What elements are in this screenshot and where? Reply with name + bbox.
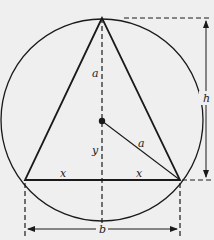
label-h: h [203,92,210,105]
label-b: b [99,223,106,236]
label-a-vertical: a [92,67,99,80]
label-x-left: x [60,167,67,180]
label-a-radius: a [138,137,145,150]
label-x-right: x [136,167,143,180]
inscribed-triangle-diagram: h b a y a x x [0,0,214,240]
center-point [99,118,105,124]
label-y: y [91,144,99,157]
